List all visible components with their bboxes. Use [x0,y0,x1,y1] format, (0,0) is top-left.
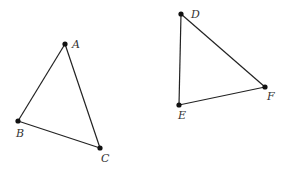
vertex-label-d: D [190,8,200,21]
edge-ab [18,44,65,121]
vertex-label-e: E [177,109,186,122]
vertex-c [97,145,102,150]
edge-ef [179,87,265,105]
edge-ca [65,44,100,148]
edge-fd [181,14,265,87]
edge-bc [18,121,100,148]
triangle-abc: ABC [15,38,110,165]
vertex-label-b: B [15,127,24,140]
triangles-diagram: ABCDEF [0,0,285,172]
vertex-e [176,102,181,107]
vertex-b [15,118,20,123]
vertex-d [178,11,183,16]
vertex-a [62,41,67,46]
vertex-label-a: A [71,38,80,51]
vertex-label-c: C [101,152,110,165]
triangle-def: DEF [176,8,275,122]
vertex-f [262,84,267,89]
edge-de [179,14,181,105]
vertex-label-f: F [266,90,275,103]
